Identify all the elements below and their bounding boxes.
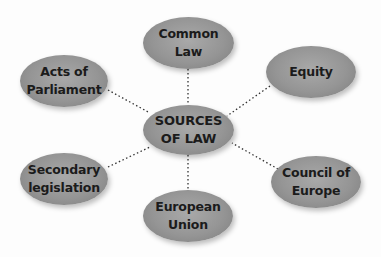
node-label: Council of Europe [282,164,350,200]
node-label: Acts of Parliament [27,63,102,99]
node-acts-of-parliament: Acts of Parliament [20,55,108,107]
node-label: European Union [155,198,220,234]
center-label: SOURCES OF LAW [155,112,222,148]
node-secondary-legislation: Secondary legislation [20,153,108,205]
node-council-of-europe: Council of Europe [271,156,361,208]
node-label: Equity [289,63,333,81]
node-label: Secondary legislation [28,161,100,197]
node-european-union: European Union [143,190,233,242]
node-equity: Equity [266,46,356,98]
node-common-law: Common Law [143,17,234,69]
node-sources-of-law: SOURCES OF LAW [143,105,234,155]
link-council-of-europe [232,143,278,169]
link-secondary-legislation [108,147,150,167]
node-label: Common Law [158,25,218,61]
link-acts-of-parliament [108,90,150,113]
link-equity [227,86,270,116]
